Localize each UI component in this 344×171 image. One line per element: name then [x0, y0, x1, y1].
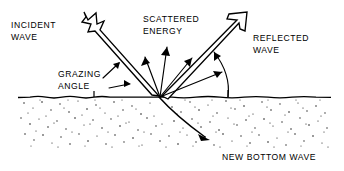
grazing-angle-pointer-2-arrowhead [124, 80, 131, 87]
label-grazing-angle-line1: GRAZING [58, 69, 101, 79]
incident-wave-arrow [82, 12, 159, 96]
label-reflected-wave-line2: WAVE [253, 45, 280, 55]
water-bottom-interface [18, 96, 331, 98]
diagram-canvas: INCIDENT WAVE GRAZING ANGLE SCATTERED EN… [0, 0, 344, 171]
label-scattered-energy-line2: ENERGY [143, 26, 183, 36]
scattered-ray-4 [160, 72, 222, 97]
label-grazing-angle-line2: ANGLE [58, 81, 90, 91]
label-incident-wave-line2: WAVE [11, 32, 38, 42]
label-incident-wave-line1: INCIDENT [11, 20, 56, 30]
bottom-scattering-diagram: INCIDENT WAVE GRAZING ANGLE SCATTERED EN… [0, 0, 344, 171]
seabed-sediment [18, 96, 331, 147]
sediment-stipple [20, 100, 328, 148]
label-new-bottom-wave: NEW BOTTOM WAVE [222, 152, 316, 162]
new-bottom-wave-path [159, 97, 205, 137]
scattered-ray-1-arrowhead [141, 57, 150, 66]
new-bottom-wave-arrowhead [198, 134, 210, 141]
new-bottom-wave-arrow [159, 97, 210, 141]
scattered-ray-2-arrowhead [161, 47, 170, 56]
label-reflected-wave-line1: REFLECTED [253, 33, 309, 43]
label-scattered-energy-line1: SCATTERED [143, 14, 199, 24]
